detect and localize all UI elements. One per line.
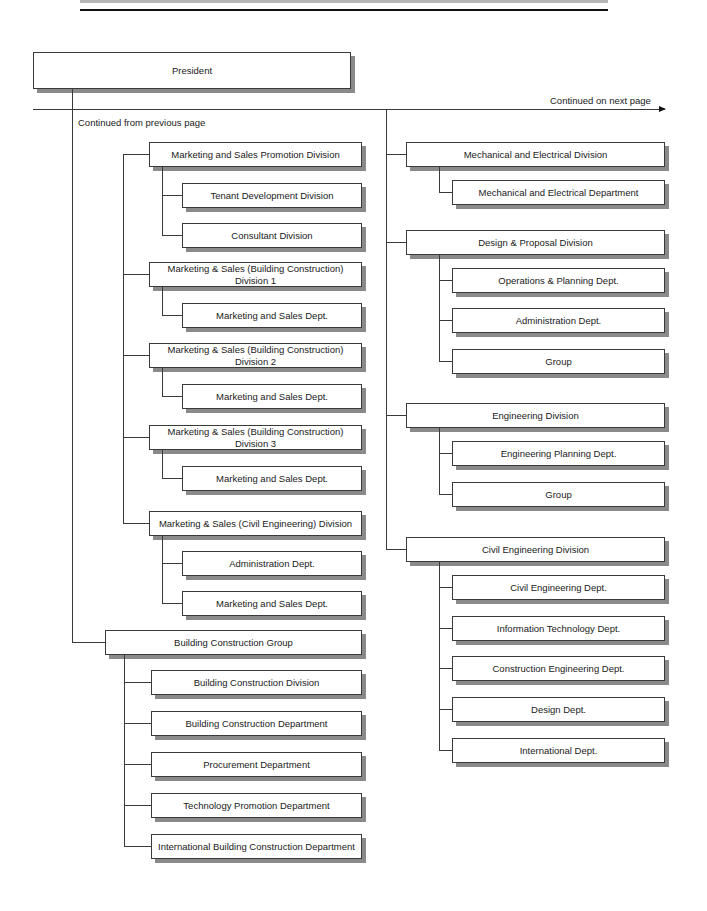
connector: [162, 450, 163, 478]
connector: [439, 628, 452, 629]
right-trunk: [386, 109, 387, 550]
connector: [162, 478, 182, 479]
connector: [439, 280, 452, 281]
dept-box: Design Dept.: [452, 697, 665, 722]
dept-box: Procurement Department: [151, 752, 362, 777]
division-box: Civil Engineering Division: [406, 537, 665, 562]
connector: [386, 154, 406, 155]
connector: [124, 846, 151, 847]
connector: [439, 587, 452, 588]
connector: [439, 167, 440, 192]
connector: [162, 536, 163, 604]
dept-box: Administration Dept.: [182, 551, 362, 576]
division-box: Marketing & Sales (Civil Engineering) Di…: [149, 511, 362, 536]
dept-box: Civil Engineering Dept.: [452, 575, 665, 600]
division-box: Design & Proposal Division: [406, 230, 665, 255]
connector: [439, 255, 440, 361]
dept-box: Building Construction Department: [151, 711, 362, 736]
connector: [439, 192, 452, 193]
connector: [439, 709, 452, 710]
dept-box: International Dept.: [452, 738, 665, 763]
dept-box: Technology Promotion Department: [151, 793, 362, 818]
connector: [386, 549, 406, 550]
dept-box: Construction Engineering Dept.: [452, 656, 665, 681]
dept-box: Group: [452, 482, 665, 507]
dept-box: Mechanical and Electrical Department: [452, 180, 665, 205]
connector: [439, 750, 452, 751]
dept-box: Engineering Planning Dept.: [452, 441, 665, 466]
group-box: Building Construction Group: [105, 630, 362, 655]
division-box: Marketing & Sales (Building Construction…: [149, 262, 362, 287]
continuation-line: [33, 109, 665, 110]
connector: [162, 195, 182, 196]
connector: [123, 355, 149, 356]
dept-box: Marketing and Sales Dept.: [182, 303, 362, 328]
connector: [124, 805, 151, 806]
connector: [162, 287, 163, 315]
connector: [439, 562, 440, 751]
connector: [162, 315, 182, 316]
connector: [123, 523, 149, 524]
header-rule-gray: [80, 0, 608, 3]
dept-box: Marketing and Sales Dept.: [182, 466, 362, 491]
connector: [162, 563, 182, 564]
connector: [439, 453, 452, 454]
division-box: Marketing & Sales (Building Construction…: [149, 425, 362, 450]
connector: [162, 235, 182, 236]
president-box: President: [33, 52, 351, 89]
dept-box: Group: [452, 349, 665, 374]
dept-box: Tenant Development Division: [182, 183, 362, 208]
continued-next-label: Continued on next page: [550, 95, 651, 106]
connector: [162, 603, 182, 604]
connector: [162, 396, 182, 397]
connector: [439, 361, 452, 362]
connector: [439, 668, 452, 669]
division-box: Mechanical and Electrical Division: [406, 142, 665, 167]
president-trunk: [72, 89, 73, 643]
dept-box: Operations & Planning Dept.: [452, 268, 665, 293]
connector: [386, 415, 406, 416]
connector: [124, 655, 125, 846]
dept-box: Consultant Division: [182, 223, 362, 248]
connector: [439, 320, 452, 321]
connector: [162, 167, 163, 235]
dept-box: International Building Construction Depa…: [151, 834, 362, 859]
dept-box: Marketing and Sales Dept.: [182, 384, 362, 409]
dept-box: Information Technology Dept.: [452, 616, 665, 641]
connector: [386, 242, 406, 243]
division-box: Marketing and Sales Promotion Division: [149, 142, 362, 167]
connector: [124, 723, 151, 724]
connector: [124, 764, 151, 765]
header-rule-black: [80, 9, 608, 11]
dept-box: Administration Dept.: [452, 308, 665, 333]
connector: [162, 368, 163, 396]
dept-box: Marketing and Sales Dept.: [182, 591, 362, 616]
connector: [124, 682, 151, 683]
connector: [123, 437, 149, 438]
division-box: Marketing & Sales (Building Construction…: [149, 343, 362, 368]
connector: [123, 154, 149, 155]
connector: [439, 494, 452, 495]
left-division-trunk: [123, 154, 124, 524]
arrow-right-icon: [659, 106, 666, 112]
connector: [123, 274, 149, 275]
continued-prev-label: Continued from previous page: [78, 117, 205, 128]
connector: [72, 642, 105, 643]
connector: [439, 428, 440, 494]
dept-box: Building Construction Division: [151, 670, 362, 695]
division-box: Engineering Division: [406, 403, 665, 428]
